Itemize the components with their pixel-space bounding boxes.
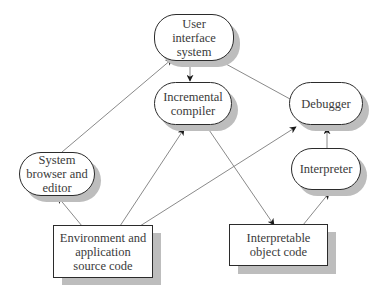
node-system-browser-and-editor: System browser and editor	[19, 152, 95, 196]
node-label: Interpretable object code	[247, 231, 311, 259]
node-interpretable-object-code: Interpretable object code	[229, 224, 328, 266]
edge-source-to-compiler	[120, 129, 184, 226]
node-incremental-compiler: Incremental compiler	[154, 82, 232, 125]
node-label: User interface system	[172, 17, 216, 59]
node-environment-source-code: Environment and application source code	[53, 225, 153, 278]
edge-compiler-to-objcode	[207, 127, 274, 225]
node-label: Interpreter	[300, 162, 353, 176]
node-user-interface-system: User interface system	[154, 14, 234, 61]
edge-objcode-to-interpreter	[303, 193, 329, 225]
node-label: Incremental compiler	[163, 90, 223, 118]
node-interpreter: Interpreter	[291, 148, 361, 190]
node-label: Debugger	[301, 97, 350, 111]
diagram-canvas: User interface system Incremental compil…	[0, 0, 390, 287]
node-label: System browser and editor	[26, 153, 87, 195]
edge-source-to-debugger	[140, 127, 296, 226]
node-label: Environment and application source code	[60, 231, 146, 273]
node-debugger: Debugger	[289, 82, 363, 125]
